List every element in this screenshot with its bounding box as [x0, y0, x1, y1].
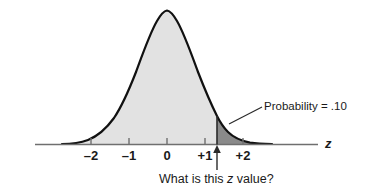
tick-label-minus-1: –1	[109, 148, 149, 163]
probability-annotation: Probability = .10	[264, 100, 347, 112]
tick-label-zero: 0	[147, 148, 187, 163]
tick-label-minus-2: –2	[71, 148, 111, 163]
distribution-plot	[0, 0, 374, 193]
caption-part-before: What is this	[159, 172, 227, 186]
caption-part-after: value?	[233, 172, 273, 186]
unknown-z-caption: What is this z value?	[159, 172, 274, 186]
x-axis-label: z	[325, 136, 332, 151]
tick-label-plus-2: +2	[223, 148, 263, 163]
curve-body-fill	[62, 11, 217, 145]
probability-leader-line	[229, 107, 262, 124]
tick-label-plus-1: +1	[185, 148, 225, 163]
normal-distribution-figure: –2 –1 0 +1 +2 z Probability = .10 What i…	[0, 0, 374, 193]
